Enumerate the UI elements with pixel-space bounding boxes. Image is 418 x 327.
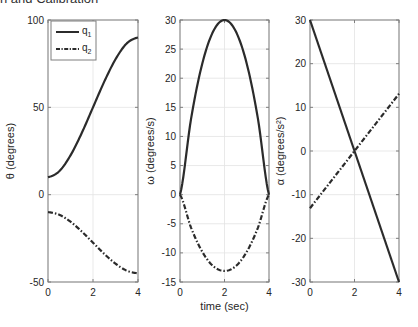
y-tick-label: 0 [300,146,306,157]
y-axis-label: θ (degrees) [4,123,16,179]
theta-position-plot: 024-50050100θ (degrees)q1q2 [4,15,141,299]
alpha-acceleration-plot: 024-30-20-100102030α (degrees/s²) [274,15,402,299]
y-axis-label: α (degrees/s²) [274,117,286,186]
x-tick-label: 2 [352,287,358,298]
y-tick-label: 30 [165,15,177,26]
x-tick-label: 2 [222,287,228,298]
y-tick-label: 5 [170,160,176,171]
x-tick-label: 0 [45,287,51,298]
y-tick-label: -30 [292,277,307,288]
omega-velocity-plot: 024-15-10-5051015202530ω (degrees/s)time… [144,15,272,313]
x-tick-label: 0 [307,287,313,298]
y-tick-label: -15 [162,277,177,288]
y-tick-label: 0 [170,189,176,200]
y-tick-label: 10 [165,131,177,142]
y-tick-label: 30 [295,15,307,26]
x-axis-label: time (sec) [200,300,248,312]
x-tick-label: 4 [266,287,272,298]
y-tick-label: 20 [165,73,177,84]
y-tick-label: -20 [292,233,307,244]
x-tick-label: 4 [135,287,141,298]
x-tick-label: 0 [177,287,183,298]
y-tick-label: -50 [30,277,45,288]
y-tick-label: -10 [292,189,307,200]
y-tick-label: 0 [38,189,44,200]
y-tick-label: 25 [165,44,177,55]
y-tick-label: 10 [295,102,307,113]
figure-canvas: 024-50050100θ (degrees)q1q2 024-15-10-50… [0,0,418,327]
y-axis-label: ω (degrees/s) [144,117,156,184]
y-tick-label: 100 [27,15,44,26]
y-tick-label: -5 [167,218,176,229]
x-tick-label: 4 [396,287,402,298]
y-tick-label: -10 [162,247,177,258]
y-tick-label: 50 [33,102,45,113]
legend: q1q2 [51,21,96,60]
y-tick-label: 15 [165,102,177,113]
x-tick-label: 2 [90,287,96,298]
y-tick-label: 20 [295,58,307,69]
